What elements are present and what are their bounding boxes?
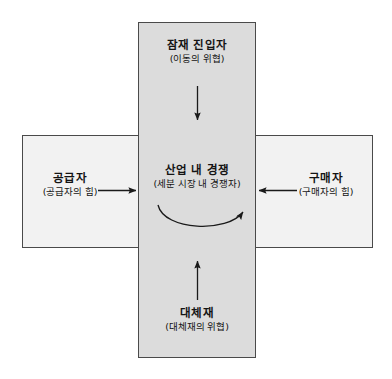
node-title: 잠재 진입자 (138, 38, 256, 52)
node-industry-rivalry: 산업 내 경쟁 (세분 시장 내 경쟁자) (128, 163, 266, 190)
node-title: 구매자 (278, 171, 374, 185)
node-potential-entrants: 잠재 진입자 (이동의 위협) (138, 38, 256, 65)
node-title: 산업 내 경쟁 (128, 163, 266, 177)
node-subtitle: (이동의 위협) (138, 53, 256, 65)
node-title: 대체재 (138, 306, 256, 320)
node-subtitle: (공급자의 힘) (22, 186, 118, 198)
node-subtitle: (세분 시장 내 경쟁자) (128, 178, 266, 190)
node-title: 공급자 (22, 171, 118, 185)
node-suppliers: 공급자 (공급자의 힘) (22, 171, 118, 198)
node-subtitle: (구매자의 힘) (278, 186, 374, 198)
node-subtitle: (대체재의 위협) (138, 321, 256, 333)
five-forces-diagram: 잠재 진입자 (이동의 위협) 공급자 (공급자의 힘) 산업 내 경쟁 (세분… (0, 0, 392, 379)
node-substitutes: 대체재 (대체재의 위협) (138, 306, 256, 333)
node-buyers: 구매자 (구매자의 힘) (278, 171, 374, 198)
center-overlap-block (138, 135, 256, 248)
